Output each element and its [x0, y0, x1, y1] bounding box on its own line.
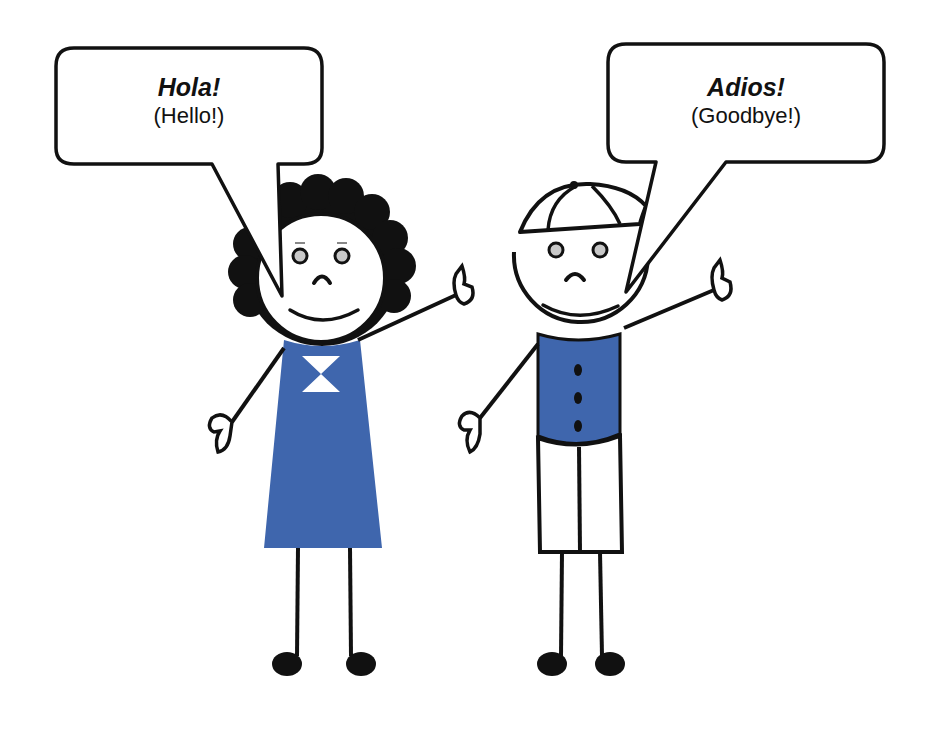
farewell-spanish: Adios! — [608, 72, 884, 102]
greeting-spanish: Hola! — [56, 72, 322, 102]
boy-left-arm — [480, 344, 538, 418]
boy-right-arm — [624, 290, 714, 328]
boy-figure — [459, 181, 731, 676]
boy-left-hand — [459, 412, 480, 452]
girl-left-leg — [297, 548, 298, 656]
boy-left-foot — [537, 652, 567, 676]
shirt-buttons — [574, 364, 582, 432]
boy-right-eye — [593, 243, 607, 257]
boy-right-hand — [712, 260, 731, 300]
girl-left-hand — [209, 415, 232, 452]
boy-left-eye — [549, 243, 563, 257]
boy-cap — [520, 181, 646, 232]
girl-left-arm — [232, 348, 284, 422]
girl-right-foot — [346, 652, 376, 676]
girl-left-foot — [272, 652, 302, 676]
greeting-translation: (Hello!) — [56, 102, 322, 130]
bubble-text-hola: Hola! (Hello!) — [56, 72, 322, 130]
shorts-divider — [579, 447, 580, 552]
girl-figure — [209, 174, 473, 676]
farewell-translation: (Goodbye!) — [608, 102, 884, 130]
bubble-text-adios: Adios! (Goodbye!) — [608, 72, 884, 130]
girl-right-leg — [350, 548, 351, 656]
boy-left-leg — [561, 552, 562, 656]
boy-right-foot — [595, 652, 625, 676]
girl-right-hand — [454, 266, 473, 304]
boy-right-leg — [600, 552, 602, 656]
